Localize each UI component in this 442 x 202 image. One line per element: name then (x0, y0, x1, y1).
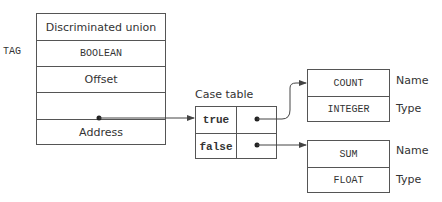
variant-true-name: COUNT (308, 70, 389, 96)
case-pointer-true (237, 107, 276, 133)
variant-true-record: COUNT INTEGER (307, 69, 390, 122)
discriminated-union-record: Discriminated union BOOLEAN Offset Addre… (36, 13, 166, 145)
variant-true-type-label: Type (396, 102, 421, 115)
case-key-true: true (196, 107, 237, 133)
case-table: true false (195, 106, 277, 159)
case-key-false: false (196, 133, 237, 159)
variant-false-type-label: Type (396, 173, 421, 186)
union-offset: Offset (37, 66, 165, 92)
tag-label: TAG (3, 46, 21, 57)
union-tag-type: BOOLEAN (37, 40, 165, 66)
variant-true-type: INTEGER (308, 96, 389, 122)
case-table-title: Case table (195, 88, 253, 101)
variant-false-type: FLOAT (308, 167, 389, 193)
variant-false-record: SUM FLOAT (307, 140, 390, 193)
case-pointer-false (237, 133, 276, 159)
union-case-pointer (37, 92, 165, 119)
union-address: Address (37, 119, 165, 145)
union-header: Discriminated union (37, 14, 165, 40)
variant-false-name-label: Name (396, 144, 428, 157)
variant-true-name-label: Name (396, 74, 428, 87)
variant-false-name: SUM (308, 141, 389, 167)
